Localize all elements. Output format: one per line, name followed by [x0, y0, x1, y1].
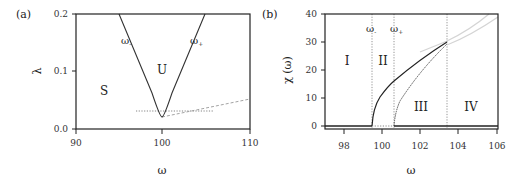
dashed-asymptote-line [162, 99, 250, 117]
a-ylabel: λ [31, 67, 44, 74]
b-xtick-102: 102 [411, 141, 428, 151]
a-ytick-0.1: 0.1 [54, 66, 68, 76]
a-xtick-100: 100 [153, 138, 170, 148]
panel-b-tag: (b) [262, 8, 278, 21]
a-omega-plus-label: ω+ [190, 35, 203, 47]
a-ytick-0.0: 0.0 [54, 124, 69, 134]
b-xlabel: ω [407, 164, 416, 177]
panel-a: (a) 0.2 0.1 0.0 90 100 110 ω λ ω- ω+ U S [16, 8, 259, 177]
panel-b: (b) 40 30 20 10 0 98 [262, 8, 506, 177]
region-3-label: III [414, 100, 428, 114]
region-u-label: U [157, 63, 167, 77]
b-ytick-10: 10 [306, 93, 318, 103]
b-xtick-100: 100 [373, 141, 390, 151]
b-ytick-0: 0 [311, 121, 317, 131]
figure: (a) 0.2 0.1 0.0 90 100 110 ω λ ω- ω+ U S [0, 0, 518, 183]
region-4-label: IV [464, 100, 478, 114]
b-ytick-40: 40 [306, 9, 318, 19]
panel-a-tag: (a) [16, 8, 31, 21]
b-ytick-30: 30 [306, 37, 318, 47]
b-omega-minus-label: ω- [366, 23, 376, 35]
b-ytick-20: 20 [306, 65, 318, 75]
region-2-label: II [378, 54, 388, 68]
b-xtick-98: 98 [338, 141, 350, 151]
b-xtick-104: 104 [449, 141, 466, 151]
b-omega-plus-label: ω+ [390, 23, 403, 35]
b-xtick-106: 106 [488, 141, 505, 151]
light-upper-curve [420, 14, 489, 52]
region-s-label: S [100, 84, 108, 98]
a-xlabel: ω [158, 164, 167, 177]
light-lower-curve [447, 17, 498, 45]
b-ylabel: χ (ω) [281, 56, 294, 84]
a-omega-minus-label: ω- [121, 35, 131, 47]
a-ytick-0.2: 0.2 [54, 9, 68, 19]
a-xtick-110: 110 [241, 138, 258, 148]
region-1-label: I [345, 54, 350, 68]
a-xtick-90: 90 [70, 138, 82, 148]
